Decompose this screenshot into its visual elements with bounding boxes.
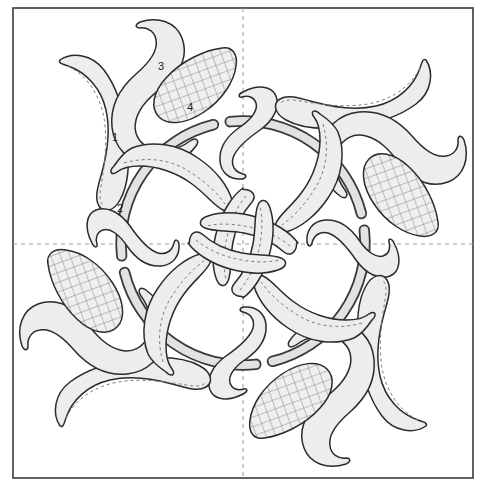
piece-label-3: 3 (158, 60, 164, 72)
pattern-canvas: 1 2 3 4 (0, 0, 486, 487)
piece-label-1: 1 (112, 131, 118, 143)
piece-label-2: 2 (117, 202, 123, 214)
pattern-svg: 1 2 3 4 (0, 0, 486, 487)
piece-label-4: 4 (187, 101, 193, 113)
